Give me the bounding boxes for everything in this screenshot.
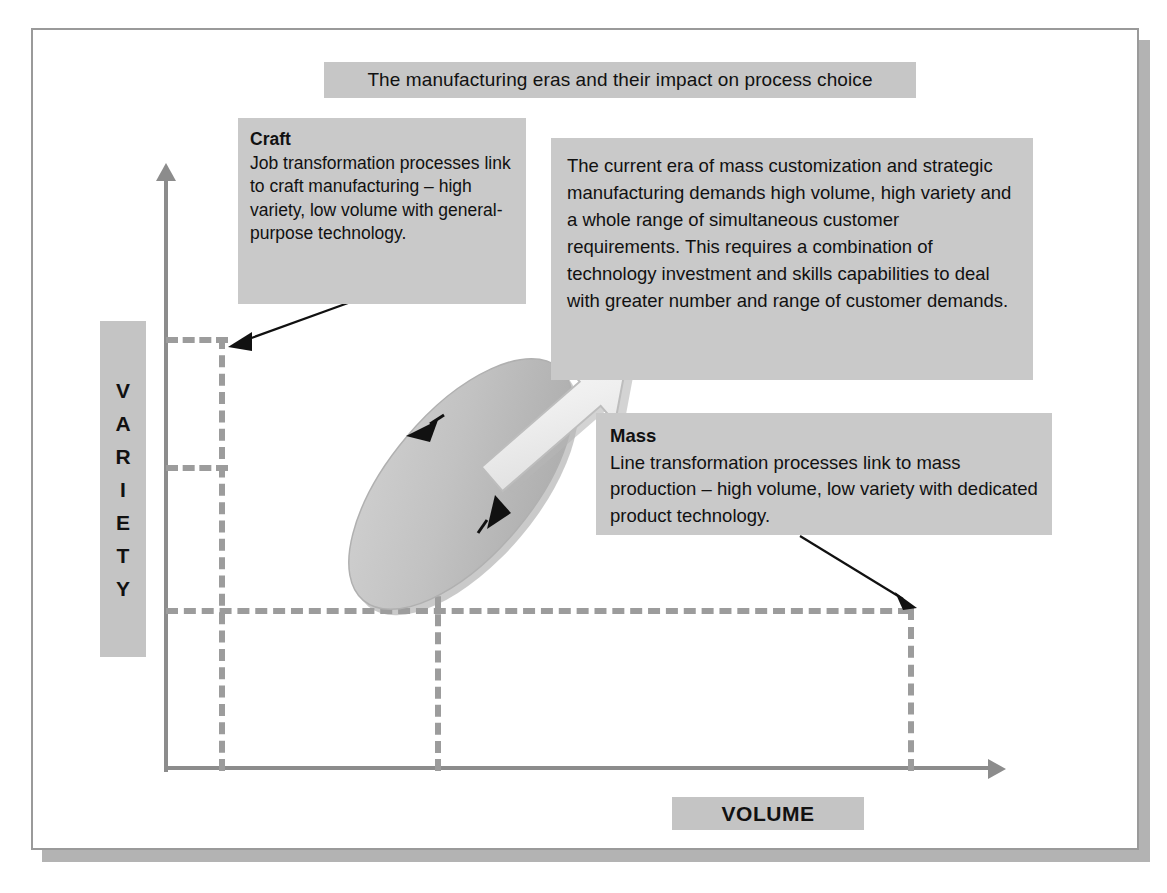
- callout-mass: Mass Line transformation processes link …: [596, 413, 1052, 535]
- dashed-guide-horizontal-low-variety: [166, 608, 910, 614]
- x-axis-arrowhead-icon: [988, 759, 1006, 779]
- mass-body: Line transformation processes link to ma…: [610, 450, 1038, 530]
- craft-heading: Craft: [250, 128, 514, 152]
- variety-letter-e: E: [116, 506, 130, 539]
- variety-letter-i: I: [120, 473, 126, 506]
- diagram-title-box: The manufacturing eras and their impact …: [324, 62, 916, 98]
- callout-craft: Craft Job transformation processes link …: [238, 118, 526, 304]
- dashed-guide-vertical-low-volume: [219, 337, 225, 771]
- variety-letter-v: V: [116, 374, 130, 407]
- y-axis-arrowhead-icon: [156, 163, 176, 181]
- era-body: The current era of mass customization an…: [567, 152, 1017, 314]
- variety-letter-a: A: [115, 407, 130, 440]
- variety-letter-t: T: [117, 539, 130, 572]
- mass-heading: Mass: [610, 423, 1038, 450]
- craft-body: Job transformation processes link to cra…: [250, 152, 514, 246]
- x-axis-label-volume: VOLUME: [672, 797, 864, 830]
- dashed-guide-vertical-mid-volume: [435, 560, 441, 771]
- page-title: The manufacturing eras and their impact …: [367, 69, 872, 91]
- variety-letter-r: R: [115, 440, 130, 473]
- callout-current-era: The current era of mass customization an…: [551, 138, 1033, 380]
- y-axis-label-variety: V A R I E T Y: [100, 321, 146, 657]
- volume-label-text: VOLUME: [722, 802, 815, 826]
- x-axis-line: [164, 766, 996, 770]
- variety-letter-y: Y: [116, 572, 130, 605]
- dashed-guide-vertical-high-volume: [908, 608, 914, 771]
- y-axis-line: [164, 178, 168, 772]
